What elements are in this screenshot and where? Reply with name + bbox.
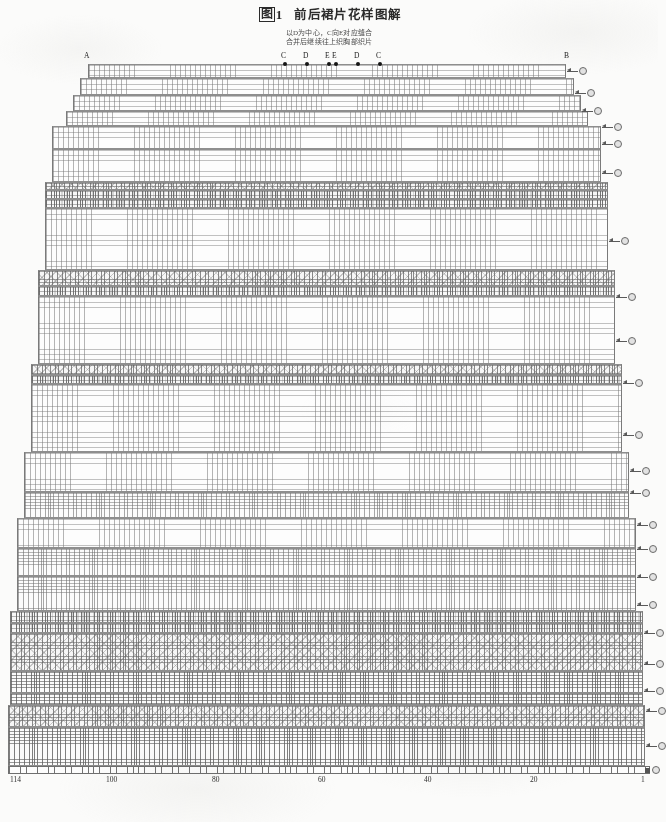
row-start-marker bbox=[623, 431, 643, 439]
arrow-left-icon bbox=[637, 577, 648, 578]
row-marker-circle-icon bbox=[614, 169, 622, 177]
row-marker-circle-icon bbox=[649, 573, 657, 581]
row-marker-circle-icon bbox=[658, 742, 666, 750]
row-start-marker bbox=[623, 379, 643, 387]
arrow-left-icon bbox=[644, 633, 655, 634]
row-start-marker bbox=[609, 237, 629, 245]
ruler-label-container: 114100806040201 bbox=[0, 775, 658, 787]
ruler-end-circle-icon bbox=[652, 766, 660, 774]
stitch-band bbox=[45, 182, 608, 190]
ruler-bar bbox=[8, 766, 650, 774]
top-marker-label: D bbox=[303, 51, 308, 60]
row-start-marker bbox=[644, 687, 664, 695]
row-marker-circle-icon bbox=[656, 660, 664, 668]
stitch-band bbox=[10, 611, 643, 623]
row-marker-circle-icon bbox=[658, 707, 666, 715]
row-marker-circle-icon bbox=[614, 123, 622, 131]
row-marker-circle-icon bbox=[587, 89, 595, 97]
arrow-left-icon bbox=[644, 664, 655, 665]
stitch-band bbox=[80, 78, 574, 95]
arrow-left-icon bbox=[582, 111, 593, 112]
arrow-left-icon bbox=[602, 144, 613, 145]
subtitle-line-1: 以D为中心，C向E对应缝合 bbox=[0, 29, 658, 38]
figure-number: 1 bbox=[276, 7, 283, 22]
stitch-band bbox=[45, 199, 608, 208]
top-marker-label: E bbox=[325, 51, 330, 60]
stitch-band bbox=[31, 384, 622, 452]
arrow-left-icon bbox=[637, 605, 648, 606]
arrow-left-icon bbox=[567, 71, 578, 72]
figure-number-badge: 图1 bbox=[257, 7, 284, 23]
row-marker-circle-icon bbox=[656, 687, 664, 695]
row-start-marker bbox=[567, 67, 587, 75]
row-marker-circle-icon bbox=[614, 140, 622, 148]
seam-point-dot-icon bbox=[356, 62, 360, 66]
ruler-tick-label: 60 bbox=[318, 775, 326, 784]
row-start-marker bbox=[646, 742, 666, 750]
stitch-band bbox=[10, 671, 643, 693]
stitch-band bbox=[52, 126, 601, 149]
arrow-left-icon bbox=[575, 93, 586, 94]
row-marker-circle-icon bbox=[649, 521, 657, 529]
row-start-marker bbox=[644, 660, 664, 668]
seam-point-dot-icon bbox=[334, 62, 338, 66]
ruler-tick-label: 1 bbox=[641, 775, 645, 784]
arrow-left-icon bbox=[630, 493, 641, 494]
ruler-tick-label: 100 bbox=[106, 775, 117, 784]
stitch-band bbox=[17, 518, 636, 548]
row-start-marker bbox=[630, 467, 650, 475]
row-marker-circle-icon bbox=[628, 337, 636, 345]
row-start-marker bbox=[575, 89, 595, 97]
row-marker-circle-icon bbox=[649, 601, 657, 609]
stitch-band bbox=[24, 492, 629, 518]
row-marker-circle-icon bbox=[656, 629, 664, 637]
row-start-marker bbox=[637, 573, 657, 581]
stitch-band bbox=[8, 727, 645, 766]
seam-point-dot-icon bbox=[327, 62, 331, 66]
row-marker-circle-icon bbox=[621, 237, 629, 245]
top-marker-label: A bbox=[84, 51, 89, 60]
row-start-marker bbox=[637, 545, 657, 553]
stitch-band bbox=[52, 149, 601, 182]
arrow-left-icon bbox=[623, 383, 634, 384]
stitch-band bbox=[45, 190, 608, 199]
stitch-band bbox=[45, 208, 608, 270]
row-start-marker bbox=[644, 629, 664, 637]
arrow-left-icon bbox=[609, 241, 620, 242]
arrow-left-icon bbox=[630, 471, 641, 472]
row-marker-circle-icon bbox=[642, 489, 650, 497]
arrow-left-icon bbox=[616, 297, 627, 298]
row-start-marker bbox=[630, 489, 650, 497]
row-start-marker bbox=[602, 123, 622, 131]
ruler-tick-label: 114 bbox=[10, 775, 21, 784]
figure-title-line: 图1 前后裙片花样图解 bbox=[257, 4, 402, 23]
stitch-count-ruler bbox=[0, 766, 658, 775]
row-start-marker bbox=[616, 293, 636, 301]
ruler-tick-label: 40 bbox=[424, 775, 432, 784]
arrow-left-icon bbox=[623, 435, 634, 436]
ruler-tick-label: 80 bbox=[212, 775, 220, 784]
row-marker-circle-icon bbox=[635, 379, 643, 387]
stitch-band bbox=[10, 623, 643, 633]
stitch-band bbox=[10, 633, 643, 671]
seam-point-dot-icon bbox=[305, 62, 309, 66]
figure-label: 图 bbox=[259, 7, 275, 22]
stitch-band bbox=[73, 95, 581, 111]
stitch-band bbox=[31, 364, 622, 375]
row-start-marker bbox=[602, 140, 622, 148]
arrow-left-icon bbox=[637, 525, 648, 526]
seam-point-dot-icon bbox=[378, 62, 382, 66]
row-start-marker bbox=[602, 169, 622, 177]
figure-header: 图1 前后裙片花样图解 以D为中心，C向E对应缝合 合并后继续往上织胸部织片 bbox=[0, 4, 658, 46]
stitch-band bbox=[38, 286, 615, 296]
row-marker-circle-icon bbox=[649, 545, 657, 553]
ruler-end-square-icon bbox=[645, 768, 650, 773]
stitch-band bbox=[88, 64, 566, 78]
row-marker-circle-icon bbox=[579, 67, 587, 75]
row-start-marker bbox=[646, 707, 666, 715]
ruler-end-marker bbox=[645, 766, 660, 774]
arrow-left-icon bbox=[616, 341, 627, 342]
row-marker-circle-icon bbox=[642, 467, 650, 475]
arrow-left-icon bbox=[602, 127, 613, 128]
